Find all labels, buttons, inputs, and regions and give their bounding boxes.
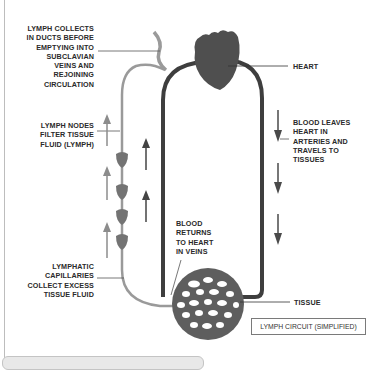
vein-flow-arrows <box>142 138 150 222</box>
tissue-circle <box>172 268 244 340</box>
artery-flow-arrows <box>274 110 282 245</box>
diagram-caption: LYMPH CIRCUIT (SIMPLIFIED) <box>251 318 366 335</box>
capillaries-label: LYMPHATIC CAPILLARIES COLLECT EXCESS TIS… <box>14 262 94 299</box>
lymph-flow-arrows <box>103 114 111 258</box>
arteries-label: BLOOD LEAVES HEART IN ARTERIES AND TRAVE… <box>293 118 350 164</box>
heart-shape <box>195 30 240 90</box>
heart-label: HEART <box>293 62 318 71</box>
lymph-nodes-label: LYMPH NODES FILTER TISSUE FLUID (LYMPH) <box>18 121 94 149</box>
lymph-ducts-label: LYMPH COLLECTS IN DUCTS BEFORE EMPTYING … <box>18 24 94 89</box>
tissue-label: TISSUE <box>294 298 321 307</box>
blood-vessel-loop <box>163 60 262 297</box>
veins-label: BLOOD RETURNS TO HEART IN VEINS <box>176 219 213 256</box>
